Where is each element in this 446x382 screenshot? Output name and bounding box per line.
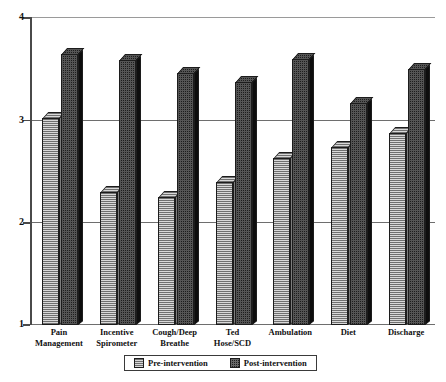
- bar-post-intervention: [292, 53, 309, 325]
- bar-post-intervention: [119, 54, 136, 325]
- bar-post-intervention: [350, 97, 367, 325]
- bar-post-intervention: [235, 76, 252, 325]
- bar-group: [319, 17, 377, 325]
- bar-group: [146, 17, 204, 325]
- legend-label-post: Post-intervention: [244, 358, 307, 368]
- x-axis-label: Ambulation: [261, 327, 319, 338]
- x-axis-label-line: Spirometer: [88, 338, 146, 349]
- x-axis-category-labels: PainManagementIncentiveSpirometerCough/D…: [30, 327, 435, 353]
- y-axis: [30, 17, 32, 325]
- x-axis-label: TedHose/SCD: [204, 327, 262, 348]
- x-axis-label-line: Breathe: [146, 338, 204, 349]
- x-axis-label: Discharge: [377, 327, 435, 338]
- bar-side-face: [425, 65, 430, 325]
- bar-post-intervention: [61, 48, 78, 325]
- y-tick-label-1: 1: [6, 319, 24, 329]
- bar-post-intervention: [408, 63, 425, 325]
- bar-pre-intervention: [331, 141, 348, 325]
- bar-front-face: [408, 69, 425, 325]
- bar-side-face: [309, 55, 314, 325]
- bar-front-face: [42, 118, 59, 325]
- x-axis-label-line: Ted: [204, 327, 262, 338]
- bar-pre-intervention: [42, 112, 59, 325]
- bar-front-face: [177, 73, 194, 325]
- legend-swatch-post-icon: [230, 358, 240, 368]
- bar-groups: [30, 17, 435, 325]
- x-axis-label: Diet: [319, 327, 377, 338]
- tick-mark-1: [23, 324, 30, 326]
- tick-mark-4: [23, 17, 30, 19]
- bar-group: [261, 17, 319, 325]
- bar-front-face: [100, 192, 117, 325]
- bar-front-face: [273, 158, 290, 325]
- x-axis-label-line: Pain: [30, 327, 88, 338]
- bar-front-face: [389, 133, 406, 325]
- bar-pre-intervention: [273, 152, 290, 325]
- bar-front-face: [119, 60, 136, 325]
- bar-post-intervention: [177, 67, 194, 325]
- bar-front-face: [235, 82, 252, 325]
- bar-front-face: [331, 147, 348, 325]
- bar-front-face: [61, 54, 78, 325]
- bar-front-face: [158, 197, 175, 325]
- legend-label-pre: Pre-intervention: [148, 358, 208, 368]
- y-tick-label-4: 4: [6, 12, 24, 22]
- tick-mark-2: [23, 222, 30, 224]
- bar-pre-intervention: [216, 176, 233, 325]
- bar-group: [204, 17, 262, 325]
- x-axis-label-line: Incentive: [88, 327, 146, 338]
- chart-legend: Pre-intervention Post-intervention: [124, 355, 317, 371]
- x-axis-label: IncentiveSpirometer: [88, 327, 146, 348]
- y-tick-label-3: 3: [6, 115, 24, 125]
- bar-pre-intervention: [158, 191, 175, 325]
- bar-pre-intervention: [389, 127, 406, 325]
- bar-front-face: [216, 182, 233, 325]
- plot-area: 4 3 2 1: [30, 17, 435, 325]
- bar-side-face: [367, 99, 372, 325]
- x-axis-label-line: Cough/Deep: [146, 327, 204, 338]
- y-tick-label-2: 2: [6, 217, 24, 227]
- bar-group: [88, 17, 146, 325]
- bar-group: [30, 17, 88, 325]
- x-axis-label-line: Management: [30, 338, 88, 349]
- bar-side-face: [78, 50, 83, 325]
- x-axis-label-line: Hose/SCD: [204, 338, 262, 349]
- tick-mark-3: [23, 120, 30, 122]
- legend-swatch-pre-icon: [134, 358, 144, 368]
- bar-side-face: [194, 69, 199, 325]
- bar-group: [377, 17, 435, 325]
- x-axis-label-line: Discharge: [377, 327, 435, 338]
- x-axis-label-line: Ambulation: [261, 327, 319, 338]
- legend-item-post: Post-intervention: [230, 358, 307, 368]
- bar-side-face: [252, 79, 257, 325]
- bar-front-face: [350, 103, 367, 325]
- bar-chart: 4 3 2 1 PainManagementIncentiveSpiromete…: [0, 0, 446, 382]
- bar-pre-intervention: [100, 186, 117, 325]
- bar-side-face: [136, 56, 141, 325]
- legend-item-pre: Pre-intervention: [134, 358, 208, 368]
- x-axis-label: PainManagement: [30, 327, 88, 348]
- bar-front-face: [292, 59, 309, 325]
- x-axis-label-line: Diet: [319, 327, 377, 338]
- x-axis-label: Cough/DeepBreathe: [146, 327, 204, 348]
